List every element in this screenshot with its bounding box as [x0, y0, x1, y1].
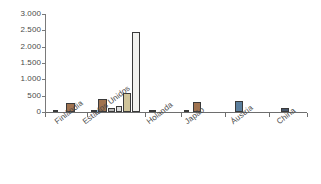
y-axis-tick	[42, 14, 46, 15]
y-axis-tick-label: 2.500	[20, 26, 41, 34]
bar	[108, 108, 115, 112]
y-axis-tick-label: 2.000	[20, 43, 41, 51]
x-axis-category-labels: FinlândiaEstados UnidosHolandaJapãoÁustr…	[45, 117, 321, 184]
bar	[116, 106, 122, 112]
y-axis-labels: 05001.0001.5002.0002.5003.000	[0, 0, 44, 184]
plot-area	[45, 14, 307, 112]
y-axis-tick-label: 3.000	[20, 10, 41, 18]
y-axis-tick	[42, 30, 46, 31]
y-axis-tick	[42, 79, 46, 80]
bar	[184, 110, 189, 112]
y-axis-tick	[42, 63, 46, 64]
x-axis-line	[45, 112, 307, 113]
y-axis-tick	[42, 47, 46, 48]
bar	[53, 110, 58, 112]
y-axis-tick-label: 1.000	[20, 75, 41, 83]
y-axis-tick-label: 0	[36, 108, 41, 116]
bar-chart: 05001.0001.5002.0002.5003.000 FinlândiaE…	[0, 0, 321, 184]
y-axis-tick-label: 1.500	[20, 59, 41, 67]
y-axis-tick	[42, 96, 46, 97]
bar	[132, 32, 140, 112]
y-axis-tick-label: 500	[27, 92, 41, 100]
